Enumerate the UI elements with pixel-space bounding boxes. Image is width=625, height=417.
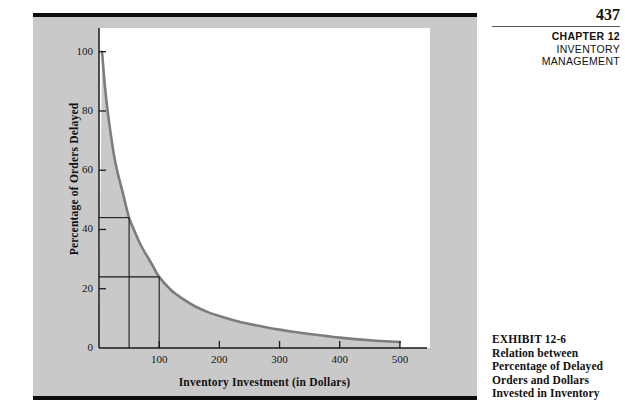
caption-line-3: Orders and Dollars — [492, 374, 624, 388]
header-line-0: CHAPTER 12 — [492, 30, 620, 43]
x-tick-label-500: 500 — [380, 353, 420, 365]
exhibit-page: 020406080100 100200300400500 Percentage … — [0, 0, 625, 417]
figure-bottom-rule — [33, 396, 477, 400]
x-tick-label-400: 400 — [320, 353, 360, 365]
y-axis-title: Percentage of Orders Delayed — [68, 59, 80, 299]
page-number: 437 — [492, 6, 620, 24]
curve-area-fill — [99, 52, 400, 348]
x-tick-label-100: 100 — [139, 353, 179, 365]
header-divider — [492, 26, 620, 27]
chapter-heading: CHAPTER 12INVENTORYMANAGEMENT — [492, 30, 620, 68]
y-tick-label-0: 0 — [63, 341, 93, 353]
caption-line-2: Percentage of Delayed — [492, 360, 624, 374]
x-tick-label-300: 300 — [260, 353, 300, 365]
chart-svg — [33, 13, 477, 400]
page-header: 437 CHAPTER 12INVENTORYMANAGEMENT — [492, 6, 620, 68]
chart: 020406080100 100200300400500 Percentage … — [33, 13, 477, 400]
caption-line-1: Relation between — [492, 347, 624, 361]
x-tick-label-200: 200 — [199, 353, 239, 365]
x-axis-title: Inventory Investment (in Dollars) — [99, 376, 430, 388]
caption-line-0: EXHIBIT 12-6 — [492, 333, 624, 347]
caption-line-4: Invested in Inventory — [492, 387, 624, 401]
header-line-1: INVENTORY — [492, 43, 620, 56]
header-line-2: MANAGEMENT — [492, 55, 620, 68]
exhibit-caption: EXHIBIT 12-6Relation betweenPercentage o… — [492, 333, 624, 401]
figure-top-rule — [33, 13, 477, 17]
y-tick-label-100: 100 — [63, 45, 93, 57]
figure-panel: 020406080100 100200300400500 Percentage … — [33, 13, 477, 400]
